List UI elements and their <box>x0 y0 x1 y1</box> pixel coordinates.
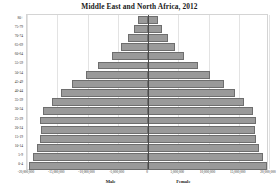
bars-layer <box>27 15 267 169</box>
y-tick-label: 15-19 <box>15 136 23 140</box>
bar-row <box>27 43 267 51</box>
bar-male-20-24 <box>41 126 148 134</box>
x-tick-label: -15,000,000 <box>48 171 64 174</box>
bar-female-65-69 <box>148 43 175 51</box>
y-tick-label: 10-14 <box>15 145 23 149</box>
bar-female-55-59 <box>148 62 198 70</box>
y-tick-label: 0-4 <box>18 163 23 167</box>
y-tick-label: 30-34 <box>15 108 23 112</box>
x-tick-label: 0 <box>146 171 148 174</box>
bar-row <box>27 89 267 97</box>
bar-row <box>27 16 267 24</box>
y-tick-label: 80+ <box>18 17 23 21</box>
y-tick-label: 65-69 <box>15 44 23 48</box>
bar-male-75-79 <box>134 25 148 33</box>
y-tick-label: 60-64 <box>15 53 23 57</box>
bar-female-75-79 <box>148 25 162 33</box>
bar-male-30-34 <box>43 107 148 115</box>
bar-female-70-74 <box>148 34 168 42</box>
y-tick-label: 45-49 <box>15 81 23 85</box>
bar-row <box>27 162 267 170</box>
gridline <box>269 15 270 169</box>
bar-row <box>27 117 267 125</box>
bar-female-50-54 <box>148 71 210 79</box>
bar-female-35-39 <box>148 98 244 106</box>
bar-male-65-69 <box>121 43 148 51</box>
sex-axis-labels: MaleFemale <box>26 180 268 189</box>
bar-female-20-24 <box>148 126 255 134</box>
bar-female-30-34 <box>148 107 253 115</box>
bar-female-25-29 <box>148 117 256 125</box>
bar-male-25-29 <box>40 117 148 125</box>
x-axis-population-ticks: -20,000,000-15,000,000-10,000,000-5,000,… <box>26 171 268 180</box>
bar-male-50-54 <box>86 71 148 79</box>
bar-male-70-74 <box>128 34 148 42</box>
bar-male-40-44 <box>61 89 148 97</box>
x-tick-label: -10,000,000 <box>78 171 94 174</box>
bar-row <box>27 153 267 161</box>
bar-male-5-9 <box>33 153 148 161</box>
bar-male-80+ <box>138 16 148 24</box>
bar-row <box>27 98 267 106</box>
bar-female-80+ <box>148 16 158 24</box>
bar-row <box>27 52 267 60</box>
plot-area <box>26 14 268 170</box>
chart-title: Middle East and North Africa, 2012 <box>0 2 279 11</box>
bar-male-60-64 <box>112 52 148 60</box>
bar-female-60-64 <box>148 52 184 60</box>
bar-row <box>27 71 267 79</box>
bar-female-0-4 <box>148 162 267 170</box>
y-tick-label: 40-44 <box>15 90 23 94</box>
y-tick-label: 75-79 <box>15 26 23 30</box>
x-tick-label: 5,000,000 <box>170 171 184 174</box>
y-tick-label: 20-24 <box>15 127 23 131</box>
sex-label-male: Male <box>106 180 116 185</box>
bar-female-15-19 <box>148 135 256 143</box>
bar-female-45-49 <box>148 80 224 88</box>
bar-row <box>27 80 267 88</box>
bar-row <box>27 107 267 115</box>
bar-female-10-14 <box>148 144 259 152</box>
y-tick-label: 35-39 <box>15 99 23 103</box>
bar-row <box>27 62 267 70</box>
bar-row <box>27 34 267 42</box>
bar-row <box>27 144 267 152</box>
bar-female-5-9 <box>148 153 263 161</box>
bar-male-45-49 <box>72 80 148 88</box>
bar-male-10-14 <box>37 144 148 152</box>
x-tick-label: 20,000,000 <box>260 171 275 174</box>
x-tick-label: -20,000,000 <box>18 171 34 174</box>
bar-male-15-19 <box>40 135 148 143</box>
bar-female-40-44 <box>148 89 235 97</box>
x-tick-label: -5,000,000 <box>109 171 124 174</box>
bar-male-55-59 <box>98 62 148 70</box>
y-tick-label: 5-9 <box>18 154 23 158</box>
population-pyramid-chart: Middle East and North Africa, 2012 80+75… <box>0 0 279 190</box>
bar-row <box>27 126 267 134</box>
sex-label-female: Female <box>176 180 190 185</box>
bar-row <box>27 135 267 143</box>
y-tick-label: 50-54 <box>15 72 23 76</box>
x-tick-label: 10,000,000 <box>200 171 215 174</box>
y-axis-age-groups: 80+75-7970-7465-6960-6455-5950-5445-4940… <box>0 14 25 170</box>
y-tick-label: 55-59 <box>15 62 23 66</box>
bar-male-35-39 <box>52 98 148 106</box>
y-tick-label: 70-74 <box>15 35 23 39</box>
x-tick-label: 15,000,000 <box>230 171 245 174</box>
bar-row <box>27 25 267 33</box>
bar-male-0-4 <box>29 162 148 170</box>
y-tick-label: 25-29 <box>15 118 23 122</box>
axis-zero-line <box>148 15 149 169</box>
